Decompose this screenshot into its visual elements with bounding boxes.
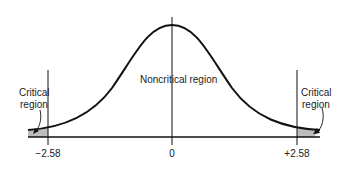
- tick-left: −2.58: [35, 148, 61, 159]
- noncritical-label: Noncritical region: [140, 74, 217, 85]
- tick-right: +2.58: [284, 148, 310, 159]
- right-critical-label-2: region: [302, 99, 330, 110]
- tick-center: 0: [169, 148, 175, 159]
- right-critical-label-1: Critical: [301, 87, 332, 98]
- right-callout-arrow: [317, 108, 323, 132]
- left-critical-label-1: Critical: [19, 87, 50, 98]
- normal-distribution-diagram: Critical region Noncritical region Criti…: [0, 0, 347, 171]
- left-critical-label-2: region: [20, 99, 48, 110]
